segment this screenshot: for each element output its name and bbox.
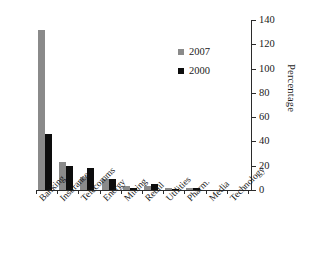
y-axis-tick [251,69,256,70]
x-axis-tick [248,190,249,194]
bar-group [227,20,248,190]
bar[interactable] [80,177,87,190]
x-axis-line [36,190,252,191]
x-axis-tick [227,190,228,194]
x-axis-tick [163,190,164,194]
x-axis-tick [206,190,207,194]
x-axis-tick [184,190,185,194]
y-axis-tick [251,20,256,21]
y-axis-tick-label: 120 [259,39,275,50]
bar-group [36,20,57,190]
bar[interactable] [66,166,73,190]
x-axis-tick [57,190,58,194]
x-axis-tick [78,190,79,194]
y-axis-tick [251,190,256,191]
legend-label-2000: 2000 [189,66,210,77]
bar[interactable] [45,134,52,190]
bar[interactable] [59,162,66,190]
bar-group [142,20,163,190]
legend-item-2007[interactable]: 2007 [178,47,210,58]
x-axis-tick [142,190,143,194]
bar-group [78,20,99,190]
x-axis-tick [121,190,122,194]
bars-layer [36,20,248,190]
bar[interactable] [102,179,109,190]
legend-swatch-icon-2007 [178,49,184,55]
bar-group [57,20,78,190]
bar-group [121,20,142,190]
y-axis-tick-label: 80 [259,88,270,99]
y-axis-tick-label: 140 [259,15,275,26]
legend-label-2007: 2007 [189,47,210,58]
legend-item-2000[interactable]: 2000 [178,66,210,77]
y-axis-title: Percentage [286,64,297,112]
x-axis-tick [36,190,37,194]
y-axis-tick [251,166,256,167]
y-axis-tick [251,141,256,142]
legend-swatch-icon-2000 [178,68,184,74]
y-axis-tick-label: 20 [259,161,270,172]
y-axis-tick [251,44,256,45]
y-axis-tick-label: 0 [259,185,264,196]
chart-legend: 2007 2000 [178,47,210,84]
y-axis-tick-label: 60 [259,112,270,123]
x-axis-tick [100,190,101,194]
bar-chart: 020406080100120140 Percentage BankingIns… [0,0,316,254]
y-axis-tick-label: 40 [259,136,270,147]
y-axis-tick-label: 100 [259,64,275,75]
bar[interactable] [109,179,116,190]
bar[interactable] [87,168,94,190]
bar[interactable] [38,30,45,190]
y-axis-tick [251,93,256,94]
bar-group [163,20,184,190]
bar-group [100,20,121,190]
plot-area [36,20,248,190]
y-axis-tick [251,117,256,118]
